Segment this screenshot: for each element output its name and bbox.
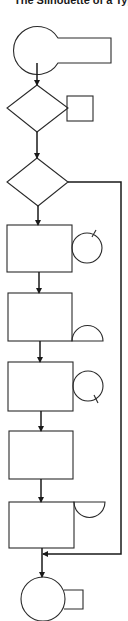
square-annotation — [67, 96, 93, 121]
process-2-node — [8, 293, 103, 341]
start-node — [14, 27, 111, 75]
process-4-node — [9, 431, 73, 479]
process-3-node — [8, 362, 103, 411]
process-1-node — [7, 225, 102, 272]
process-5-node — [9, 502, 105, 548]
decision-1-node — [7, 85, 93, 132]
end-node — [21, 577, 83, 621]
bypass-line — [43, 182, 121, 554]
decision-2-node — [7, 158, 68, 206]
flowchart — [0, 0, 128, 621]
